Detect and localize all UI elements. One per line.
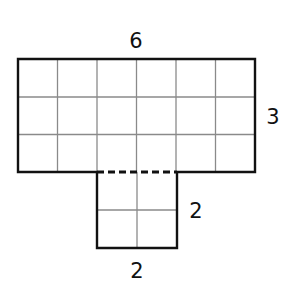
bottom-width-label: 2: [130, 259, 143, 283]
top-height-label: 3: [266, 105, 279, 129]
composite-shape-diagram: 6 3 2 2: [0, 0, 284, 296]
top-width-label: 6: [129, 29, 142, 53]
bottom-rect-grid: [97, 172, 177, 248]
top-rect-grid: [18, 59, 255, 172]
bottom-height-label: 2: [189, 199, 202, 223]
